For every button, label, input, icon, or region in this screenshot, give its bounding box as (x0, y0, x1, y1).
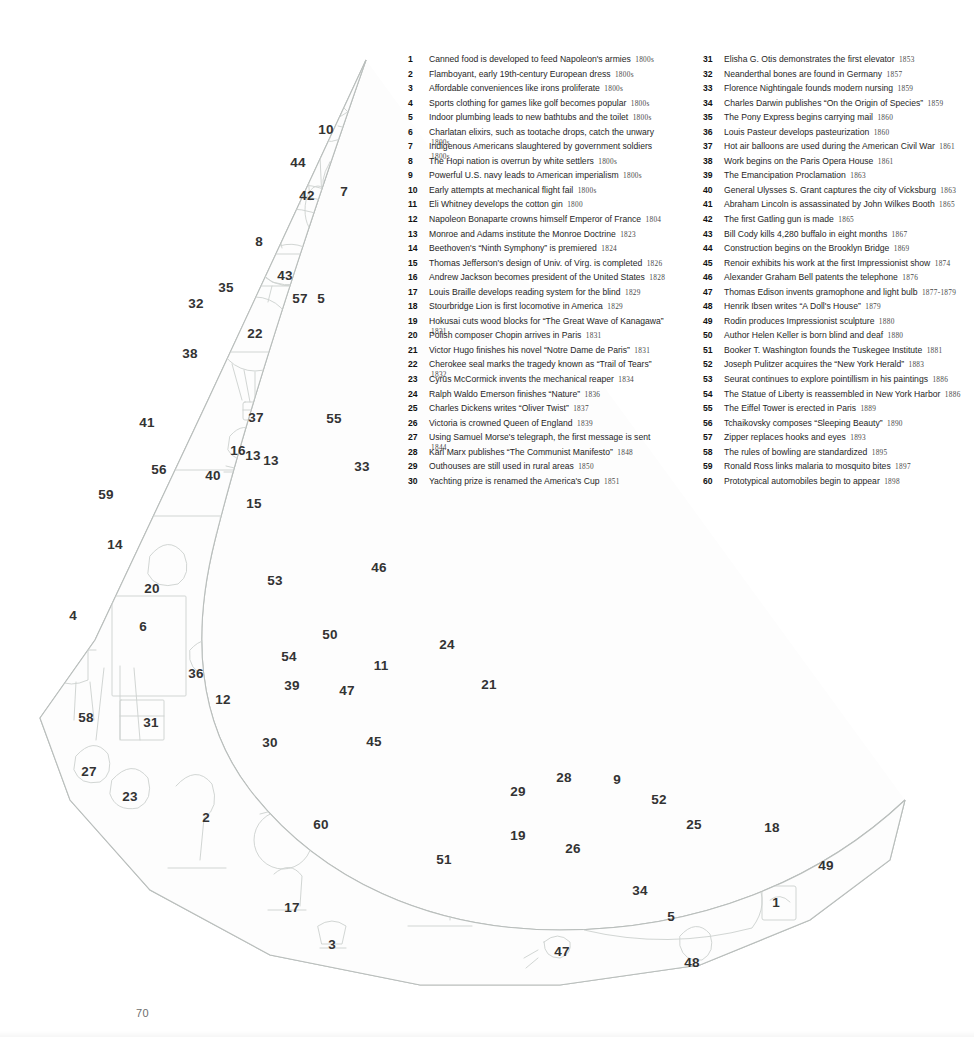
legend-row: 36Louis Pasteur develops pasteurization … (703, 127, 964, 142)
legend-row: 39The Emancipation Proclamation 1863 (703, 170, 964, 185)
legend-entry-year: 1800s (635, 55, 654, 64)
legend-entry-year: 1800s (623, 171, 642, 180)
legend-entry-description: Victoria is crowned Queen of England (429, 418, 573, 428)
legend-entry-text: Affordable conveniences like irons proli… (429, 83, 669, 93)
legend-entry-year: 1857 (887, 70, 903, 79)
legend-entry-description: Bill Cody kills 4,280 buffalo in eight m… (724, 229, 887, 239)
legend-row: 8The Hopi nation is overrun by white set… (408, 156, 669, 171)
legend-entry-description: Alexander Graham Bell patents the teleph… (724, 272, 898, 282)
legend-entry-description: Polish composer Chopin arrives in Paris (429, 330, 581, 340)
legend-number: 15 (408, 258, 429, 268)
legend-entry-description: Joseph Pulitzer acquires the “New York H… (724, 359, 904, 369)
legend-entry-year: 1886 (945, 390, 961, 399)
legend-entry-year: 1865 (838, 215, 854, 224)
legend-number: 26 (408, 418, 429, 428)
callout-20: 20 (144, 582, 159, 596)
callout-44: 44 (290, 156, 305, 170)
legend-number: 4 (408, 98, 429, 108)
legend-entry-description: Indigenous Americans slaughtered by gove… (429, 141, 652, 151)
legend-entry-text: The Hopi nation is overrun by white sett… (429, 156, 669, 166)
legend-entry-year: 1897 (895, 462, 911, 471)
legend-entry-description: Zipper replaces hooks and eyes (724, 432, 846, 442)
legend-entry-text: The rules of bowling are standardized 18… (724, 447, 964, 457)
legend-entry-description: Ralph Waldo Emerson finishes “Nature” (429, 389, 580, 399)
legend-row: 30Yachting prize is renamed the America'… (408, 476, 669, 491)
legend-number: 24 (408, 389, 429, 399)
legend-number: 37 (703, 141, 724, 151)
legend-number: 56 (703, 418, 724, 428)
legend-entry-year: 1893 (850, 433, 866, 442)
callout-29: 29 (510, 785, 525, 799)
legend-entry-text: Powerful U.S. navy leads to American imp… (429, 170, 669, 180)
legend-entry-text: Louis Braille develops reading system fo… (429, 287, 669, 297)
legend-number: 58 (703, 447, 724, 457)
legend-entry-description: Henrik Ibsen writes “A Doll's House” (724, 301, 861, 311)
legend-entry-description: Charles Dickens writes “Oliver Twist” (429, 403, 569, 413)
callout-17: 17 (284, 901, 299, 915)
legend-entry-text: Early attempts at mechanical flight fail… (429, 185, 669, 195)
legend-row: 31Elisha G. Otis demonstrates the first … (703, 54, 964, 69)
callout-3: 3 (328, 938, 336, 952)
legend-row: 19Hokusai cuts wood blocks for “The Grea… (408, 316, 669, 331)
callout-51: 51 (436, 853, 451, 867)
legend-row: 50Author Helen Keller is born blind and … (703, 330, 964, 345)
legend-entry-text: Stourbridge Lion is first locomotive in … (429, 301, 669, 311)
legend-number: 36 (703, 127, 724, 137)
scan-edge-artifact (0, 1031, 974, 1037)
legend-number: 23 (408, 374, 429, 384)
legend-entry-description: Andrew Jackson becomes president of the … (429, 272, 645, 282)
legend-entry-year: 1863 (940, 186, 956, 195)
legend-entry-text: Thomas Edison invents gramophone and lig… (724, 287, 964, 297)
legend-entry-year: 1859 (928, 99, 944, 108)
legend-row: 32Neanderthal bones are found in Germany… (703, 69, 964, 84)
legend-row: 13Monroe and Adams institute the Monroe … (408, 229, 669, 244)
legend-row: 27Using Samuel Morse's telegraph, the fi… (408, 432, 669, 447)
legend-entry-year: 1800s (633, 113, 652, 122)
legend-entry-year: 1886 (932, 375, 948, 384)
legend-number: 1 (408, 54, 429, 64)
legend-row: 49Rodin produces Impressionist sculpture… (703, 316, 964, 331)
legend-column-left: 1Canned food is developed to feed Napole… (408, 54, 669, 490)
legend-row: 42The first Gatling gun is made 1865 (703, 214, 964, 229)
legend-entry-year: 1837 (573, 404, 589, 413)
legend-row: 28Karl Marx publishes “The Communist Man… (408, 447, 669, 462)
legend-number: 32 (703, 69, 724, 79)
legend-row: 47Thomas Edison invents gramophone and l… (703, 287, 964, 302)
legend-number: 17 (408, 287, 429, 297)
legend-entry-text: Rodin produces Impressionist sculpture 1… (724, 316, 964, 326)
legend-entry-description: Louis Braille develops reading system fo… (429, 287, 621, 297)
legend-number: 7 (408, 141, 429, 151)
legend-entry-description: Eli Whitney develops the cotton gin (429, 199, 563, 209)
legend-entry-text: Ronald Ross links malaria to mosquito bi… (724, 461, 964, 471)
callout-32: 32 (188, 297, 203, 311)
legend-entry-text: Louis Pasteur develops pasteurization 18… (724, 127, 964, 137)
callout-1: 1 (772, 896, 780, 910)
legend-row: 4Sports clothing for games like golf bec… (408, 98, 669, 113)
legend-entry-text: Author Helen Keller is born blind and de… (724, 330, 964, 340)
legend-entry-year: 1867 (892, 230, 908, 239)
legend-row: 3Affordable conveniences like irons prol… (408, 83, 669, 98)
legend-entry-text: Flamboyant, early 19th-century European … (429, 69, 669, 79)
callout-26: 26 (565, 842, 580, 856)
legend-entry-year: 1876 (902, 273, 918, 282)
callout-14: 14 (107, 538, 122, 552)
legend-entry-year: 1877-1879 (922, 288, 956, 297)
legend-entry-text: Prototypical automobiles begin to appear… (724, 476, 964, 486)
legend-row: 2Flamboyant, early 19th-century European… (408, 69, 669, 84)
legend-entry-year: 1800 (567, 200, 583, 209)
legend-entry-description: The Hopi nation is overrun by white sett… (429, 156, 594, 166)
callout-18: 18 (764, 821, 779, 835)
legend-entry-year: 1883 (908, 360, 924, 369)
legend-number: 47 (703, 287, 724, 297)
legend-row: 18Stourbridge Lion is first locomotive i… (408, 301, 669, 316)
legend-number: 46 (703, 272, 724, 282)
legend-entry-description: Canned food is developed to feed Napoleo… (429, 54, 631, 64)
callout-47: 47 (554, 945, 569, 959)
legend-number: 54 (703, 389, 724, 399)
legend-number: 39 (703, 170, 724, 180)
legend-row: 45Renoir exhibits his work at the first … (703, 258, 964, 273)
legend-entry-year: 1865 (939, 200, 955, 209)
callout-41: 41 (139, 416, 154, 430)
legend-entry-text: Andrew Jackson becomes president of the … (429, 272, 669, 282)
legend-number: 57 (703, 432, 724, 442)
